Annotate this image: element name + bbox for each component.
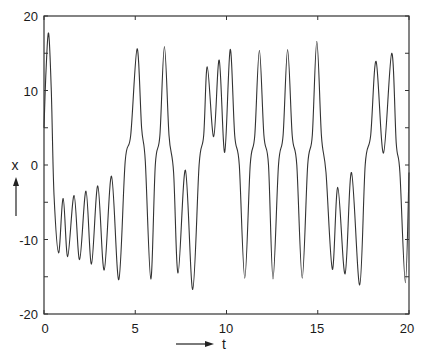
- y-tick-label: 20: [24, 9, 38, 24]
- axis-ticks: [44, 16, 409, 314]
- y-tick-label: -20: [19, 307, 38, 322]
- y-axis-label-text: x: [12, 157, 19, 173]
- arrowhead-right-icon: [205, 341, 214, 347]
- y-tick-label: 10: [24, 84, 38, 99]
- y-tick-label: 0: [31, 158, 38, 173]
- tick-labels: 20 10 0 -10 -20 0 5 10 15 20: [19, 9, 414, 336]
- y-axis-label: x: [12, 157, 20, 216]
- x-axis-label-text: t: [222, 336, 226, 352]
- series-line: [44, 33, 409, 289]
- x-tick-label: 15: [310, 321, 324, 336]
- plot-frame: [44, 16, 409, 314]
- arrowhead-up-icon: [13, 177, 19, 186]
- x-tick-label: 20: [400, 321, 414, 336]
- x-axis-label: t: [176, 336, 226, 352]
- x-tick-label: 5: [131, 321, 138, 336]
- x-tick-label: 0: [41, 321, 48, 336]
- x-tick-label: 10: [219, 321, 233, 336]
- chart-figure: 20 10 0 -10 -20 0 5 10 15 20 x t: [0, 0, 426, 364]
- y-tick-label: -10: [19, 233, 38, 248]
- figure-caption-cropped: [12, 354, 422, 364]
